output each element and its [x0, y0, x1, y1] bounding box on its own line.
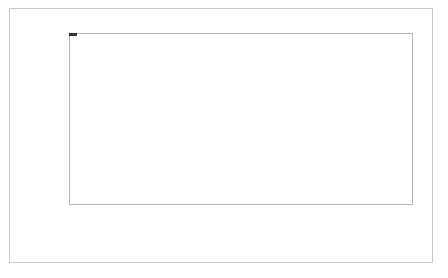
stacked-area-chart — [69, 33, 413, 205]
chart-figure — [0, 0, 448, 278]
series-label-natural-gas — [69, 33, 77, 36]
plot-area — [69, 33, 413, 205]
